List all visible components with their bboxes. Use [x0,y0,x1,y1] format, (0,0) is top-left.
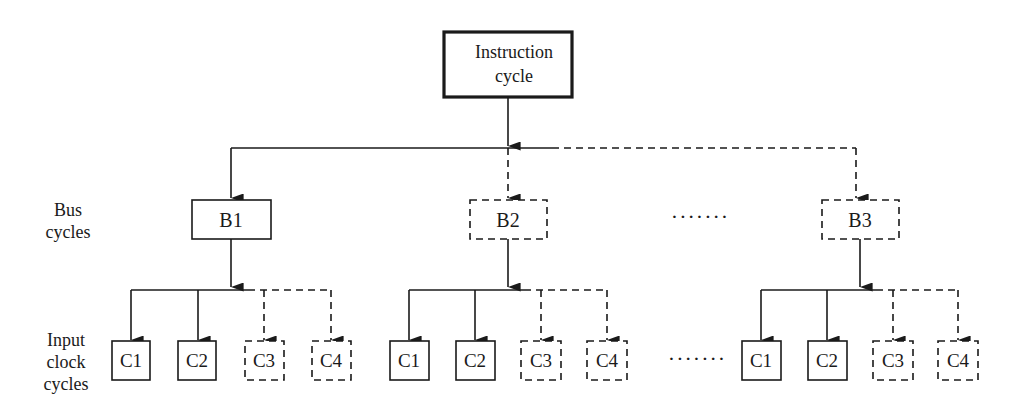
row-label-bus-cycles: Bus cycles [46,200,91,242]
node-label: C4 [320,350,343,371]
node-label: B3 [848,209,871,231]
instruction-cycle-diagram: Bus cycles Input clock cycles Instructio… [0,0,1024,408]
node-label: C4 [596,350,619,371]
row-label-line: Bus [54,200,82,220]
node-label: C1 [750,350,772,371]
bus-cycle-b2: B2 [470,200,547,239]
node-label: C2 [186,350,208,371]
clock-group-3: C1 C2 C3 C4 [742,239,978,380]
bus-cycle-b3: B3 [822,200,899,239]
node-label: C4 [947,350,970,371]
node-label: C3 [253,350,275,371]
clock-group-1: C1 C2 C3 C4 [112,239,351,380]
node-label: C2 [464,350,486,371]
row-label-line: cycles [44,374,89,394]
node-label: C1 [398,350,420,371]
node-label: B2 [496,209,519,231]
row-label-line: cycles [46,222,91,242]
instruction-cycle-node: Instruction cycle [444,32,572,97]
bus-cycle-b1: B1 [192,200,271,239]
ellipsis-clock: ······· [668,346,726,371]
ellipsis-bus: ······· [671,204,729,229]
node-label: B1 [219,209,242,231]
node-label: C3 [882,350,904,371]
row-label-input-clock-cycles: Input clock cycles [44,330,89,394]
node-label: Instruction [475,42,553,62]
node-label: cycle [495,66,533,86]
node-label: C1 [120,350,142,371]
node-label: C3 [530,350,552,371]
row-label-line: clock [47,352,86,372]
clock-group-2: C1 C2 C3 C4 [390,239,627,380]
node-label: C2 [816,350,838,371]
row-label-line: Input [47,330,85,350]
